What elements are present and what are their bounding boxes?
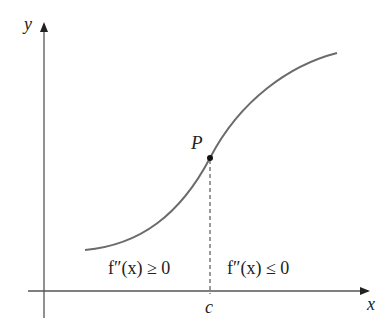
region-right-label: f″(x) ≤ 0 <box>227 258 289 279</box>
x-axis-label: x <box>367 294 375 315</box>
inflection-diagram <box>0 0 392 334</box>
tick-label-c: c <box>205 297 213 318</box>
region-left-label: f″(x) ≥ 0 <box>108 258 170 279</box>
point-label: P <box>191 132 203 154</box>
curve <box>85 53 337 250</box>
y-axis-label: y <box>24 14 32 35</box>
point-p <box>207 155 213 161</box>
